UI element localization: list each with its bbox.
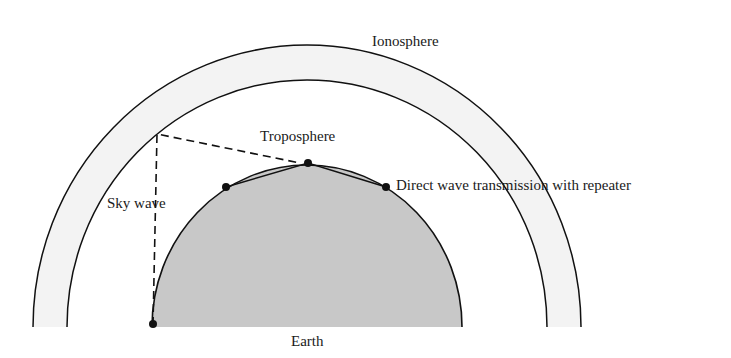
repeater-left-dot bbox=[222, 183, 230, 191]
direct-wave-label: Direct wave transmission with repeater bbox=[396, 177, 631, 193]
radio-propagation-diagram: Ionosphere Troposphere Sky wave Direct w… bbox=[0, 0, 731, 358]
sky-wave-station-dot bbox=[149, 320, 157, 328]
ionosphere-label: Ionosphere bbox=[372, 33, 439, 49]
earth-label: Earth bbox=[291, 333, 324, 349]
sky-wave-label: Sky wave bbox=[107, 195, 166, 211]
troposphere-label: Troposphere bbox=[260, 128, 336, 144]
repeater-right-dot bbox=[382, 183, 390, 191]
repeater-top-dot bbox=[304, 159, 312, 167]
